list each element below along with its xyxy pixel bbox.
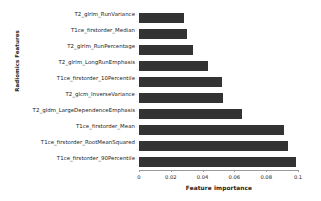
bar-row: T2_gldm_LargeDependenceEmphasis: [139, 106, 298, 122]
x-axis-tick-label: 0.02: [165, 174, 177, 180]
x-axis-tick-label: 0.04: [197, 174, 209, 180]
bar-row: T1ce_firstorder_Mean: [139, 122, 298, 138]
feature-importance-chart: Radiomics Features T2_glrlm_RunVarianceT…: [0, 0, 321, 201]
bar: [139, 29, 187, 39]
bar: [139, 125, 284, 135]
bar-row: T2_glcm_InverseVariance: [139, 90, 298, 106]
plot-area: T2_glrlm_RunVarianceT1ce_firstorder_Medi…: [139, 10, 298, 170]
y-axis-tick-label: T1ce_firstorder_90Percentile: [57, 155, 135, 161]
y-axis-tick-label: T2_glrlm_RunPercentage: [67, 43, 135, 49]
bar: [139, 109, 242, 119]
bar-row: T1ce_firstorder_90Percentile: [139, 154, 298, 170]
y-axis-tick-label: T1ce_firstorder_10Percentile: [57, 75, 135, 81]
x-axis-tick-label: 0.08: [260, 174, 272, 180]
x-axis-tick-label: 0: [137, 174, 140, 180]
y-axis-tick-label: T2_gldm_LargeDependenceEmphasis: [33, 107, 135, 113]
y-axis-title: Radiomics Features: [14, 15, 20, 107]
y-axis-tick-label: T2_glrlm_LongRunEmphasis: [59, 59, 136, 65]
x-axis-tick: [234, 170, 235, 172]
y-axis-tick-label: T1ce_firstorder_RootMeanSquared: [41, 139, 135, 145]
x-axis-tick: [266, 170, 267, 172]
bar-row: T1ce_firstorder_RootMeanSquared: [139, 138, 298, 154]
x-axis-tick: [203, 170, 204, 172]
y-axis-tick-label: T2_glrlm_RunVariance: [74, 11, 135, 17]
bar-row: T2_glrlm_RunPercentage: [139, 42, 298, 58]
bar-row: T2_glrlm_LongRunEmphasis: [139, 58, 298, 74]
bar: [139, 93, 223, 103]
x-axis-line: [139, 170, 299, 171]
x-axis-title: Feature importance: [139, 185, 299, 191]
x-axis-tick-label: 0.06: [229, 174, 241, 180]
bar: [139, 157, 296, 167]
bar: [139, 45, 193, 55]
bar: [139, 141, 288, 151]
y-axis-tick-label: T2_glcm_InverseVariance: [65, 91, 135, 97]
y-axis-tick-label: T1ce_firstorder_Mean: [76, 123, 135, 129]
bar-row: T1ce_firstorder_Median: [139, 26, 298, 42]
x-axis-tick: [171, 170, 172, 172]
bar-row: T2_glrlm_RunVariance: [139, 10, 298, 26]
bar: [139, 13, 184, 23]
bar-row: T1ce_firstorder_10Percentile: [139, 74, 298, 90]
y-axis-tick-label: T1ce_firstorder_Median: [71, 27, 135, 33]
bar: [139, 61, 208, 71]
x-axis-tick: [298, 170, 299, 172]
x-axis-tick-label: 0.1: [294, 174, 302, 180]
x-axis-tick: [139, 170, 140, 172]
bar: [139, 77, 222, 87]
